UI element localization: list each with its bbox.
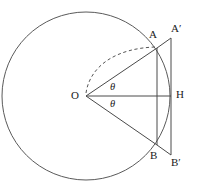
segment-OA <box>86 48 157 96</box>
label-angle-theta-upper: θ <box>110 82 115 93</box>
geometry-canvas <box>0 0 200 195</box>
segment-B-Bprime <box>157 145 171 155</box>
label-point-H: H <box>176 89 184 100</box>
label-point-B-prime: B′ <box>171 157 181 168</box>
geometry-figure: O A B H A′ B′ θ θ <box>0 0 200 195</box>
dashed-arc <box>86 47 156 93</box>
segment-OB <box>86 96 157 145</box>
segment-A-Aprime <box>157 38 171 48</box>
label-point-B: B <box>150 150 157 161</box>
label-point-A: A <box>149 29 157 40</box>
label-angle-theta-lower: θ <box>110 99 115 110</box>
label-point-O: O <box>71 90 79 101</box>
label-point-A-prime: A′ <box>171 23 181 34</box>
